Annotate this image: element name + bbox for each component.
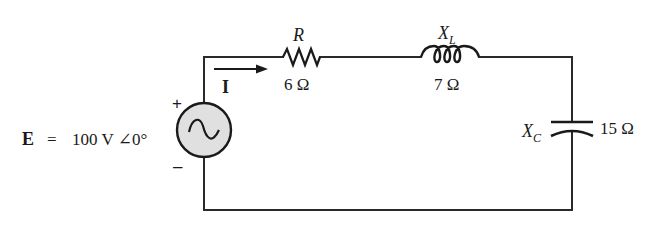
- ac-sine-source-icon: [177, 103, 231, 157]
- wire-bottom: [204, 157, 572, 210]
- wire-top-left: [204, 57, 283, 103]
- capacitor-value-label: 15 Ω: [600, 120, 634, 137]
- capacitor-name-main: X: [522, 121, 533, 141]
- resistor-name-label: R: [293, 26, 304, 44]
- source-plus-sign: +: [172, 95, 182, 112]
- circuit-diagram: [0, 0, 656, 230]
- inductor-value-label: 7 Ω: [434, 76, 459, 93]
- wire-top-right: [479, 57, 572, 121]
- source-value-label: 100 V ∠0°: [72, 131, 147, 148]
- inductor-name-label: XL: [438, 24, 456, 42]
- source-equals-sign: =: [47, 131, 57, 148]
- capacitor-name-label: XC: [522, 122, 541, 140]
- zigzag-resistor-icon: [283, 49, 320, 65]
- source-minus-sign: –: [173, 158, 182, 175]
- inductor-name-sub: L: [449, 33, 456, 47]
- current-label: I: [222, 78, 229, 96]
- arrow-right-icon: [214, 65, 268, 74]
- resistor-value-label: 6 Ω: [284, 76, 309, 93]
- source-symbol-label: E: [22, 130, 34, 148]
- inductor-name-main: X: [438, 23, 449, 43]
- capacitor-name-sub: C: [533, 131, 541, 145]
- coil-inductor-icon: [421, 46, 479, 62]
